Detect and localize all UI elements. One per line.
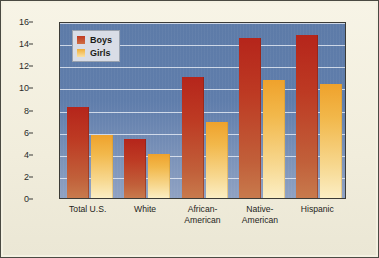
legend-swatch-boys bbox=[77, 36, 85, 44]
y-tick-label: 16 bbox=[3, 17, 29, 27]
bar-girls-african-american bbox=[206, 122, 228, 198]
legend-swatch-girls bbox=[77, 49, 85, 57]
y-tick-label: 14 bbox=[3, 39, 29, 49]
bar-group bbox=[124, 23, 170, 198]
y-tick-label: 4 bbox=[3, 150, 29, 160]
x-tick-line: White bbox=[116, 204, 173, 215]
x-tick-label: Total U.S. bbox=[59, 204, 116, 215]
y-tick-label: 12 bbox=[3, 61, 29, 71]
x-tick-line: Native- bbox=[231, 204, 288, 215]
y-tick-mark bbox=[29, 110, 33, 111]
x-tick-line: Hispanic bbox=[289, 204, 346, 215]
x-tick-label: Hispanic bbox=[289, 204, 346, 215]
bar-boys-hispanic bbox=[296, 35, 318, 198]
x-tick-line: American bbox=[174, 215, 231, 226]
y-tick-label: 8 bbox=[3, 106, 29, 116]
y-tick-label: 0 bbox=[3, 194, 29, 204]
legend-label-girls: Girls bbox=[90, 48, 111, 58]
legend-item-girls: Girls bbox=[77, 47, 112, 58]
bar-group bbox=[239, 23, 285, 198]
legend-label-boys: Boys bbox=[90, 35, 112, 45]
legend: Boys Girls bbox=[72, 30, 120, 62]
y-tick-mark bbox=[29, 44, 33, 45]
y-tick-mark bbox=[29, 176, 33, 177]
bar-girls-white bbox=[148, 154, 170, 198]
y-tick-mark bbox=[29, 22, 33, 23]
bar-boys-native-american bbox=[239, 38, 261, 198]
x-tick-line: African- bbox=[174, 204, 231, 215]
bar-boys-white bbox=[124, 139, 146, 198]
y-tick-mark bbox=[29, 132, 33, 133]
y-tick-label: 10 bbox=[3, 83, 29, 93]
y-tick-mark bbox=[29, 154, 33, 155]
bar-boys-african-american bbox=[182, 77, 204, 198]
legend-item-boys: Boys bbox=[77, 34, 112, 45]
plot-area: Boys Girls bbox=[59, 22, 346, 199]
x-tick-label: Native-American bbox=[231, 204, 288, 225]
y-tick-mark bbox=[29, 88, 33, 89]
y-tick-label: 6 bbox=[3, 128, 29, 138]
bar-group bbox=[182, 23, 228, 198]
bar-girls-native-american bbox=[263, 80, 285, 198]
x-tick-line: Total U.S. bbox=[59, 204, 116, 215]
y-tick-label: 2 bbox=[3, 172, 29, 182]
bar-group bbox=[296, 23, 342, 198]
bar-boys-total-u-s bbox=[67, 107, 89, 198]
x-tick-label: White bbox=[116, 204, 173, 215]
bar-girls-hispanic bbox=[320, 84, 342, 198]
x-tick-line: American bbox=[231, 215, 288, 226]
chart-figure: Percentage of 16- to 24-Year-Olds Withou… bbox=[0, 0, 379, 258]
bar-girls-total-u-s bbox=[91, 135, 113, 198]
y-tick-mark bbox=[29, 66, 33, 67]
y-tick-mark bbox=[29, 199, 33, 200]
x-tick-label: African-American bbox=[174, 204, 231, 225]
